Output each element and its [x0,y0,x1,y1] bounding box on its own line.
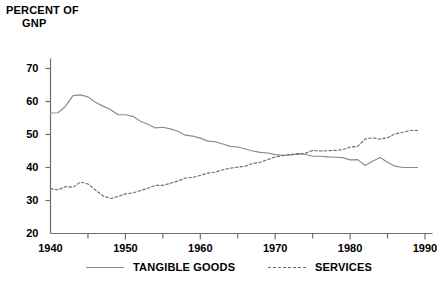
x-axis-tick-label: 1960 [180,242,220,254]
y-axis-tick-label: 40 [13,161,39,173]
y-axis-tick-label: 20 [13,227,39,239]
x-axis-tick-label: 1980 [330,242,370,254]
x-axis-tick-label: 1940 [31,242,71,254]
chart-legend: TANGIBLE GOODS SERVICES [0,258,445,280]
legend-label-services: SERVICES [315,261,372,273]
y-axis-tick-label: 30 [13,194,39,206]
series-line-services [51,131,418,199]
chart-container: PERCENT OF GNP 203040506070 194019501960… [0,0,445,284]
series-line-tangible-goods [51,95,418,168]
x-axis-tick-label: 1950 [105,242,145,254]
legend-swatch-dashed-line-icon [268,262,306,272]
x-axis-tick-label: 1990 [405,242,445,254]
y-axis-title-line-1: PERCENT OF [6,4,79,17]
y-axis-tick-label: 50 [13,128,39,140]
x-axis-tick-label: 1970 [255,242,295,254]
data-series [51,95,418,199]
legend-label-tangible-goods: TANGIBLE GOODS [133,261,235,273]
y-axis-title-line-2: GNP [22,17,46,30]
legend-item-services: SERVICES [268,258,372,276]
axes [46,59,433,240]
legend-item-tangible-goods: TANGIBLE GOODS [86,258,235,276]
y-axis-tick-label: 60 [13,95,39,107]
legend-swatch-solid-line-icon [86,262,124,272]
y-axis-tick-label: 70 [13,62,39,74]
